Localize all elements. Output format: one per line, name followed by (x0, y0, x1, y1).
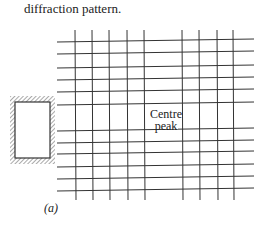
fringe-line-v (182, 30, 183, 200)
fringe-line-v (233, 30, 234, 200)
fringe-line-h (57, 140, 254, 143)
fringe-line-h (57, 89, 254, 92)
fringe-line-h (57, 188, 254, 191)
fringe-line-v (75, 30, 76, 200)
fringe-line-v (199, 30, 200, 200)
centre-peak-label: Centre peak (150, 108, 182, 132)
fringe-line-h (57, 102, 254, 105)
fringe-line-h (57, 65, 254, 68)
fringe-line-v (109, 30, 110, 200)
fringe-line-h (57, 176, 254, 179)
fringe-line-h (57, 151, 254, 154)
fringe-line-h (57, 77, 254, 80)
aperture-icon (10, 96, 55, 164)
subfigure-label: (a) (44, 201, 58, 216)
fringe-line-h (57, 164, 254, 167)
diffraction-grid-diagram (0, 0, 269, 234)
centre-label-line2: peak (150, 120, 182, 132)
fringe-line-h (57, 51, 254, 54)
fringe-line-h (57, 39, 254, 42)
fringe-line-v (127, 30, 128, 200)
fringe-line-v (92, 30, 93, 200)
fringe-line-v (144, 30, 145, 200)
fringe-line-v (217, 30, 218, 200)
